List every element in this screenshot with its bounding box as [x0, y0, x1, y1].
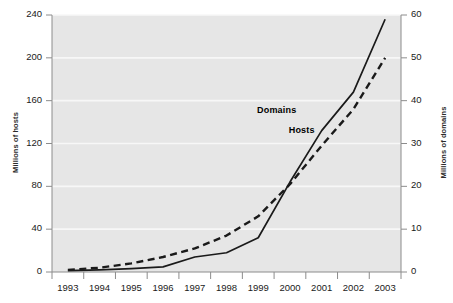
left-tick-label: 40 — [8, 222, 42, 233]
left-tick-label: 120 — [8, 137, 42, 148]
left-tick-label: 0 — [8, 265, 42, 276]
right-tick-label: 10 — [411, 222, 445, 233]
left-tick-label: 80 — [8, 179, 42, 190]
right-tick-label: 20 — [411, 179, 445, 190]
chart-container: Millions of hosts Millions of domains 04… — [0, 0, 453, 303]
series-label-hosts: Hosts — [289, 125, 315, 135]
left-axis — [46, 15, 52, 272]
x-tick-label: 2003 — [363, 282, 407, 293]
line-chart-canvas — [0, 0, 453, 303]
right-tick-label: 60 — [411, 8, 445, 19]
right-tick-label: 50 — [411, 51, 445, 62]
left-tick-label: 200 — [8, 51, 42, 62]
series-label-domains: Domains — [257, 105, 296, 115]
left-tick-label: 240 — [8, 8, 42, 19]
left-tick-label: 160 — [8, 94, 42, 105]
bottom-axis — [52, 272, 401, 279]
right-tick-label: 0 — [411, 265, 445, 276]
right-tick-label: 40 — [411, 94, 445, 105]
right-tick-label: 30 — [411, 137, 445, 148]
right-axis — [401, 15, 407, 272]
